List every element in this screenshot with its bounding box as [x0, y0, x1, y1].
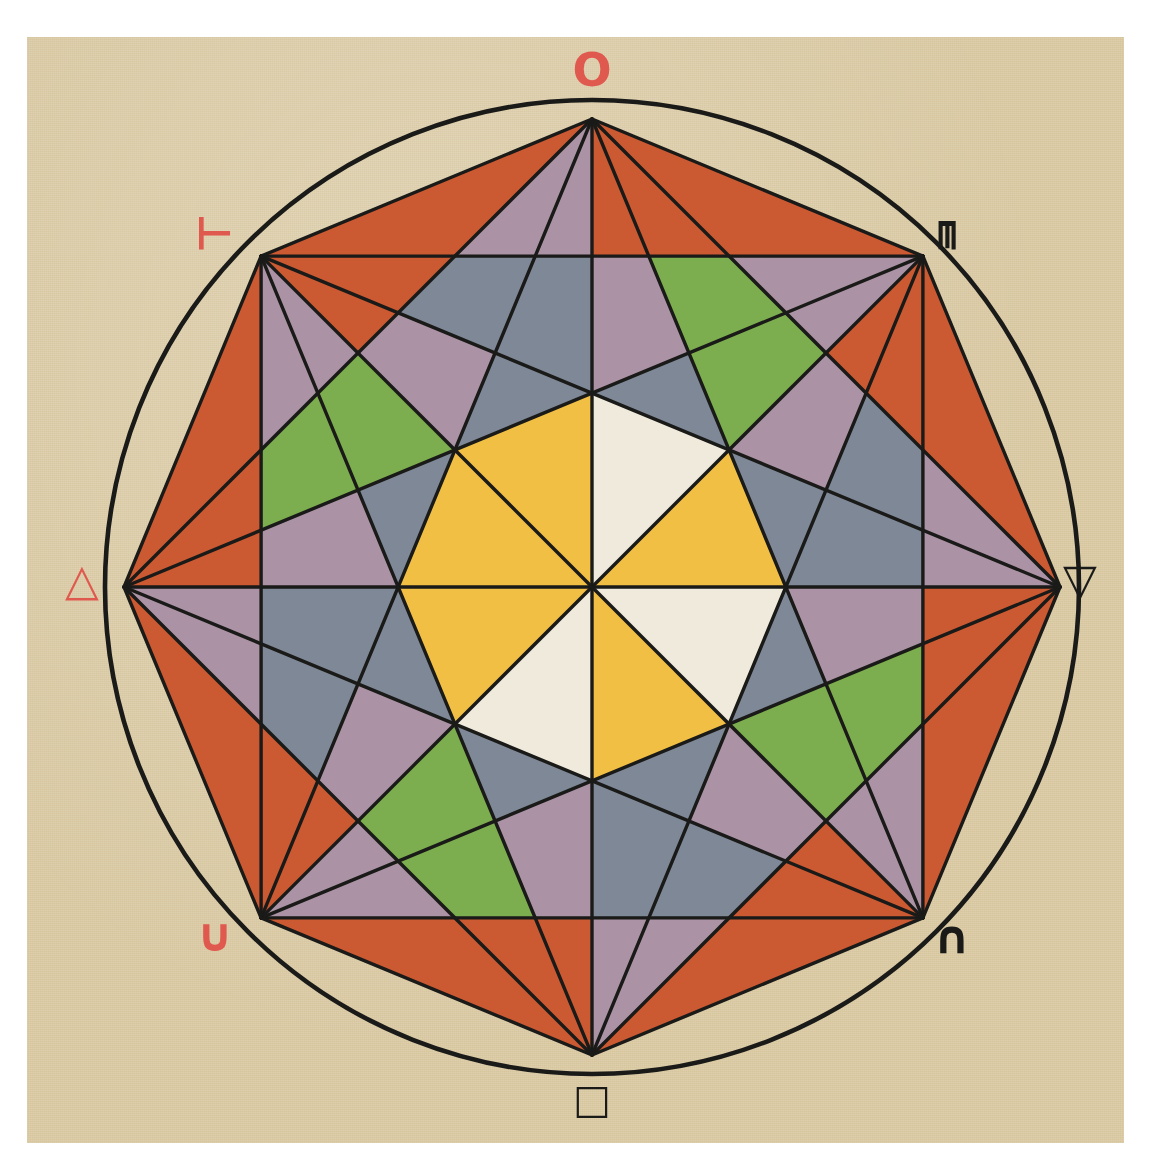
chord-lines-group	[124, 119, 1060, 1055]
vertex-label-v-bottom-right: ∩	[933, 914, 970, 960]
down-triangle-symbol: ▽	[1063, 558, 1097, 602]
vertex-label-v-bottom: □	[573, 1079, 611, 1119]
vertex-label-v-right: ▽	[1063, 558, 1097, 602]
octagram-svg	[0, 0, 1161, 1169]
figure-page: O ⊥ ᄐ △ ▽ ∪ ∩ □	[0, 0, 1161, 1169]
rotated-k-symbol: ⊥	[192, 213, 236, 253]
vertex-label-v-top-right: ᄐ	[938, 213, 978, 257]
intersection-symbol: ∩	[933, 914, 970, 960]
square-symbol: □	[573, 1079, 611, 1119]
vertex-label-v-top-left: ⊥	[194, 211, 234, 255]
up-triangle-symbol: △	[65, 558, 99, 602]
octagram-figure	[0, 0, 1161, 1169]
vertex-label-v-top: O	[572, 47, 611, 93]
vertex-label-v-bottom-left: ∪	[196, 912, 233, 958]
inverted-k-symbol: ᄐ	[936, 215, 980, 255]
union-symbol: ∪	[196, 912, 233, 958]
vertex-label-v-left: △	[65, 558, 99, 602]
circle-symbol: O	[572, 47, 611, 93]
